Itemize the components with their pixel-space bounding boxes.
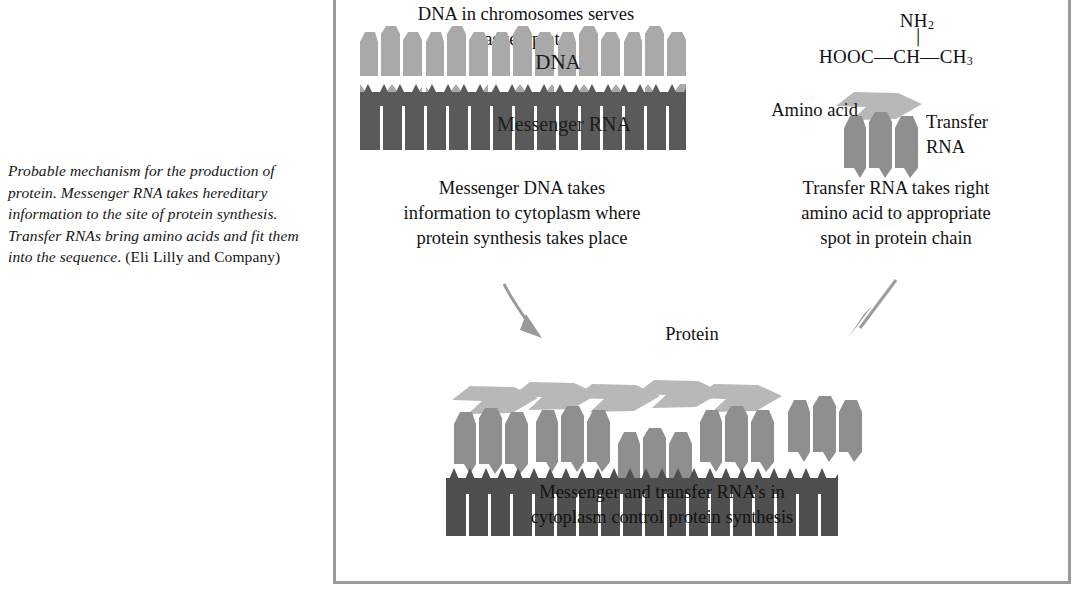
amino-acid-formula: NH2 │ HOOC—CH—CH3 bbox=[766, 10, 1026, 69]
arrow-right bbox=[860, 280, 896, 328]
figure-caption: Probable mechanism for the production of… bbox=[8, 160, 308, 268]
label-dna: DNA bbox=[518, 50, 598, 75]
label-messenger-rna: Messenger RNA bbox=[464, 112, 664, 137]
protein-amino-acid-chain bbox=[452, 380, 782, 414]
arrow-left bbox=[504, 284, 532, 328]
label-left-caption: Messenger DNA takes information to cytop… bbox=[336, 176, 708, 251]
arrow-left-head bbox=[520, 314, 542, 338]
formula-chain: HOOC—CH—CH3 bbox=[766, 46, 1026, 69]
label-amino-acid: Amino acid bbox=[728, 98, 858, 123]
label-right-caption: Transfer RNA takes right amino acid to a… bbox=[726, 176, 1066, 251]
caption-source-text: . (Eli Lilly and Company) bbox=[117, 248, 280, 265]
label-dna-template: DNA in chromosomes serves as template bbox=[346, 2, 706, 52]
figure-frame: DNA in chromosomes serves as template NH… bbox=[333, 0, 1071, 584]
dna-zigzag-edge bbox=[360, 76, 686, 106]
label-bottom-caption: Messenger and transfer RNA’s in cytoplas… bbox=[462, 480, 862, 530]
bond-line: │ bbox=[810, 33, 1026, 46]
caption-italic-tail: sequence bbox=[60, 248, 118, 265]
label-protein: Protein bbox=[592, 322, 792, 347]
label-transfer-rna: Transfer RNA bbox=[926, 110, 1046, 160]
arrow-right-head bbox=[848, 306, 872, 338]
